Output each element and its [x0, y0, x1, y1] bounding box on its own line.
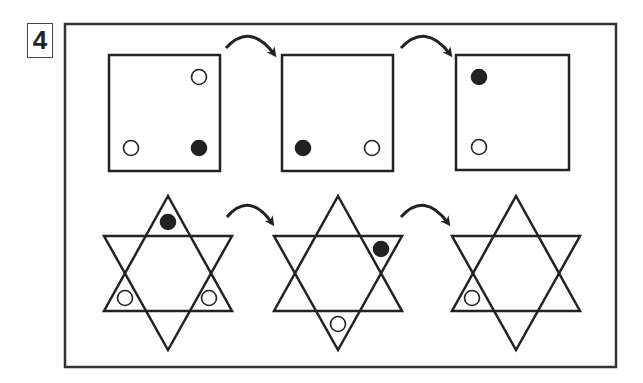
- filled-dot: [192, 141, 207, 156]
- square-panel-2: [282, 55, 393, 171]
- hexagram-panel-3: [452, 196, 580, 350]
- hollow-dot: [202, 291, 217, 306]
- filled-dot: [472, 70, 487, 85]
- curved-arrow-icon: [401, 36, 450, 54]
- hollow-dot: [465, 291, 480, 306]
- row-hexagram: [104, 196, 580, 350]
- hexagram-panel-2: [274, 196, 402, 350]
- hollow-dot: [192, 70, 207, 85]
- row-square: [109, 36, 569, 171]
- square-panel-3: [456, 55, 569, 170]
- hexagram-panel-1: [104, 196, 232, 350]
- curved-arrow-icon: [226, 36, 274, 54]
- square-panel-1: [109, 55, 220, 171]
- curved-arrow-icon: [227, 205, 272, 223]
- filled-dot: [374, 242, 389, 257]
- hollow-dot: [331, 317, 346, 332]
- puzzle-diagram: [0, 0, 643, 383]
- hollow-dot: [365, 141, 380, 156]
- curved-arrow-icon: [401, 205, 448, 223]
- hollow-dot: [118, 291, 133, 306]
- filled-dot: [296, 141, 311, 156]
- hollow-dot: [124, 141, 139, 156]
- filled-dot: [161, 215, 176, 230]
- hollow-dot: [472, 140, 487, 155]
